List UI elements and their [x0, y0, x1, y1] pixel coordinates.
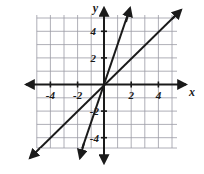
y-axis-label: y: [91, 1, 99, 15]
x-axis-label: x: [188, 85, 195, 99]
y-tick-label-neg2: -2: [90, 105, 100, 117]
coordinate-plane-svg: -4 -2 2 4 4 2 -2 -4 y x: [0, 0, 204, 174]
x-tick-label-neg2: -2: [73, 89, 83, 101]
y-tick-label-pos4: 4: [90, 25, 97, 37]
graph-figure: -4 -2 2 4 4 2 -2 -4 y x: [0, 0, 204, 174]
y-tick-label-pos2: 2: [90, 52, 97, 64]
x-tick-label-neg4: -4: [46, 89, 56, 101]
y-tick-label-neg4: -4: [90, 132, 100, 144]
x-tick-label-pos2: 2: [127, 89, 134, 101]
x-tick-label-pos4: 4: [155, 89, 162, 101]
